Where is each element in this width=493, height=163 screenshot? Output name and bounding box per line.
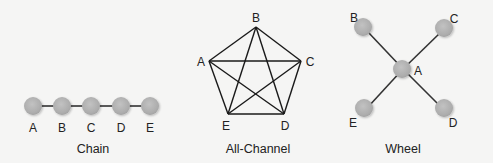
all-channel-label-c: C xyxy=(306,55,315,69)
wheel-network: A B C D E Wheel xyxy=(349,11,459,156)
all-channel-label-e: E xyxy=(222,119,230,133)
chain-node-a xyxy=(24,97,42,115)
all-channel-caption: All-Channel xyxy=(226,142,291,156)
all-channel-network: A B C D E All-Channel xyxy=(197,11,315,156)
network-diagrams: A B C D E Chain A B C D E All-Channel xyxy=(0,0,493,163)
chain-caption: Chain xyxy=(77,142,110,156)
edge-c-d xyxy=(284,61,301,114)
wheel-node-d xyxy=(435,99,453,117)
wheel-label-d: D xyxy=(449,116,458,130)
chain-label-b: B xyxy=(58,121,66,135)
wheel-caption: Wheel xyxy=(385,142,420,156)
all-channel-edges xyxy=(209,27,301,114)
chain-label-d: D xyxy=(117,121,126,135)
chain-node-c xyxy=(82,97,100,115)
edge-c-e xyxy=(228,61,301,114)
wheel-label-a: A xyxy=(414,64,422,78)
wheel-label-e: E xyxy=(349,116,357,130)
chain-label-e: E xyxy=(146,121,154,135)
wheel-label-b: B xyxy=(350,11,358,25)
edge-b-e xyxy=(228,27,256,114)
edge-a-b xyxy=(209,27,256,61)
all-channel-label-a: A xyxy=(197,55,205,69)
chain-network: A B C D E Chain xyxy=(24,97,159,156)
wheel-node-a xyxy=(393,60,411,78)
edge-e-a xyxy=(209,61,228,114)
edge-b-d xyxy=(256,27,284,114)
edge-b-c xyxy=(256,27,301,61)
all-channel-label-b: B xyxy=(252,11,260,25)
chain-node-b xyxy=(53,97,71,115)
chain-node-d xyxy=(112,97,130,115)
chain-label-a: A xyxy=(29,121,37,135)
wheel-label-c: C xyxy=(450,12,459,26)
wheel-node-e xyxy=(355,99,373,117)
edge-a-d xyxy=(209,61,284,114)
all-channel-label-d: D xyxy=(281,119,290,133)
chain-label-c: C xyxy=(87,121,96,135)
chain-node-e xyxy=(141,97,159,115)
